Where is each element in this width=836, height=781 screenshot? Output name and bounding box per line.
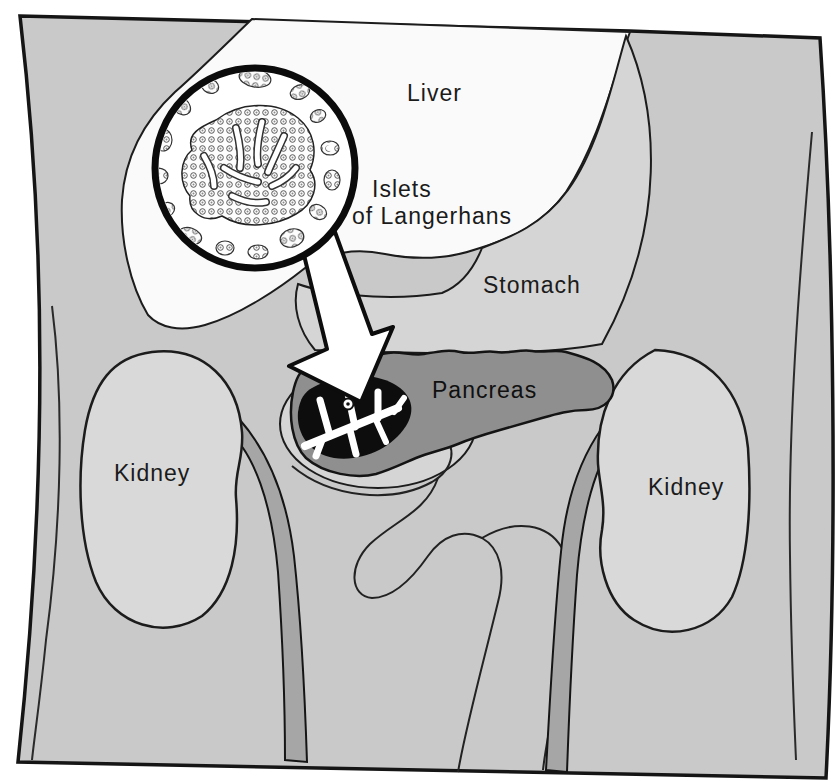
label-stomach: Stomach — [483, 272, 581, 298]
label-islets-line1: Islets — [372, 176, 432, 202]
anatomy-diagram: Liver Islets of Langerhans Stomach Pancr… — [0, 0, 836, 781]
label-liver: Liver — [407, 80, 462, 106]
label-kidney-left: Kidney — [114, 460, 190, 486]
islet-marker-dot — [346, 402, 350, 406]
diagram-canvas: Liver Islets of Langerhans Stomach Pancr… — [0, 0, 836, 781]
kidney-left-shape — [80, 351, 242, 627]
label-pancreas: Pancreas — [432, 377, 537, 403]
label-islets-line2: of Langerhans — [352, 203, 512, 229]
label-kidney-right: Kidney — [648, 474, 724, 500]
